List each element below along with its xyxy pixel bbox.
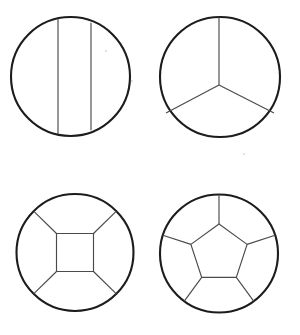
circle-three-radii-outline [160,17,280,137]
speck-b [105,50,107,52]
circle-inscribed-pentagon [160,195,278,313]
circle-inscribed-square [17,194,134,311]
circle-two-vertical-chords [11,17,130,136]
circle-two-vertical-chords-outline [11,17,130,136]
figure-sheet [0,0,300,335]
circle-partition-diagram [0,0,300,335]
circle-three-radii [160,17,280,137]
speck-c [243,153,245,155]
speck-a [131,80,133,82]
